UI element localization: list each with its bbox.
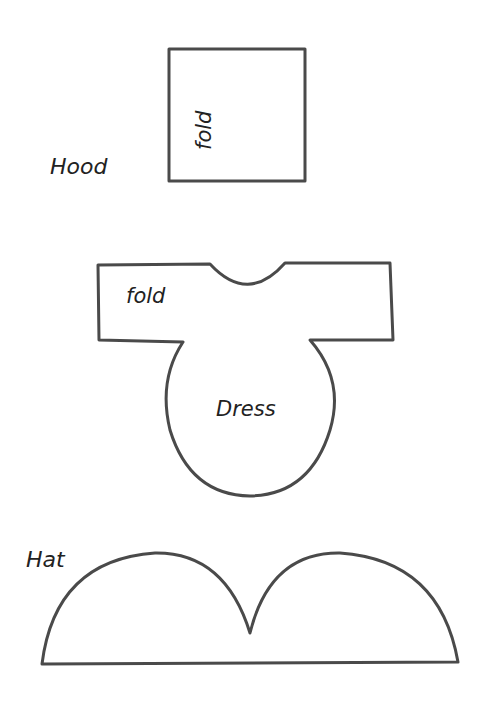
- hood-fold-label: fold: [192, 110, 216, 150]
- hat-outline: [42, 553, 458, 664]
- pattern-canvas: fold Hood fold Dress Hat: [0, 0, 492, 704]
- hood-piece: fold Hood: [50, 49, 305, 181]
- dress-piece: fold Dress: [98, 263, 393, 496]
- hood-outline: [169, 49, 305, 181]
- dress-label: Dress: [216, 397, 276, 421]
- hat-label: Hat: [26, 547, 66, 572]
- hat-piece: Hat: [26, 547, 458, 664]
- dress-fold-label: fold: [126, 284, 166, 308]
- hood-label: Hood: [50, 154, 108, 179]
